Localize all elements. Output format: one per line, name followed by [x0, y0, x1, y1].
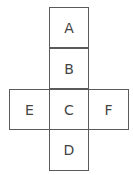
face-f: F — [88, 89, 129, 130]
face-d: D — [49, 129, 89, 171]
face-c: C — [49, 89, 89, 130]
face-e: E — [9, 89, 50, 130]
face-a: A — [49, 7, 89, 48]
face-b: B — [49, 48, 89, 89]
